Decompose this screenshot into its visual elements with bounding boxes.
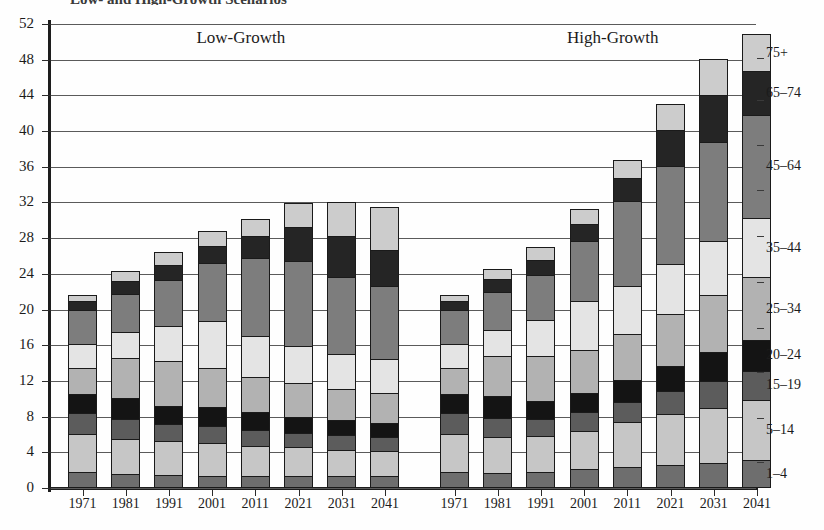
legend-tick-mark (757, 100, 764, 101)
bar-segment (327, 354, 356, 389)
bar[interactable] (370, 207, 399, 488)
bar-segment (198, 368, 227, 406)
bar-segment (370, 451, 399, 477)
bar-segment (68, 394, 97, 413)
bar-segment (154, 406, 183, 424)
bar-segment (483, 330, 512, 356)
bar-segment (370, 250, 399, 287)
bar-segment (370, 423, 399, 437)
y-tick-label: 16 (4, 337, 34, 352)
bar-segment (656, 104, 685, 130)
y-tick-mark (42, 381, 51, 382)
bar-segment (699, 352, 728, 381)
y-tick-mark (42, 95, 51, 96)
bar[interactable] (241, 219, 270, 488)
bar-segment (613, 160, 642, 179)
bar-segment (570, 301, 599, 350)
bar[interactable] (570, 209, 599, 488)
bar-segment (241, 430, 270, 446)
bar-segment (241, 377, 270, 413)
bar[interactable] (699, 59, 728, 488)
y-tick-mark (42, 345, 51, 346)
y-tick-label: 20 (4, 302, 34, 317)
legend-label-35-44: 35–44 (766, 241, 801, 255)
y-tick-mark (42, 452, 51, 453)
x-tick-label: 1971 (434, 496, 476, 512)
bar-segment (111, 474, 140, 488)
bar[interactable] (440, 295, 469, 488)
bar-segment (570, 469, 599, 488)
gridline (50, 131, 756, 132)
bar-segment (370, 286, 399, 358)
bar-segment (327, 202, 356, 236)
bar-segment (370, 476, 399, 488)
bar-segment (483, 356, 512, 396)
bar[interactable] (327, 202, 356, 488)
legend-label-15-19: 15–19 (766, 378, 801, 392)
bar-segment (370, 359, 399, 393)
bar-segment (613, 178, 642, 200)
bar-segment (483, 418, 512, 438)
legend-label-25-34: 25–34 (766, 302, 801, 316)
group-caption-high-growth: High-Growth (533, 28, 693, 48)
gridline (50, 24, 756, 25)
bar[interactable] (111, 271, 140, 488)
bar[interactable] (526, 247, 555, 488)
bar-segment (526, 275, 555, 321)
bar-segment (241, 412, 270, 430)
y-tick-label: 36 (4, 159, 34, 174)
bar[interactable] (154, 252, 183, 488)
bar-segment (68, 344, 97, 367)
x-tick-label: 1991 (520, 496, 562, 512)
x-tick-label: 2031 (693, 496, 735, 512)
bar-segment (613, 422, 642, 467)
y-tick-label: 8 (4, 409, 34, 424)
y-tick-label: 4 (4, 444, 34, 459)
bar-segment (526, 472, 555, 488)
bar-segment (154, 361, 183, 406)
bar[interactable] (656, 104, 685, 488)
bar-segment (699, 241, 728, 295)
group-caption-low-growth: Low-Growth (161, 28, 321, 48)
bar-segment (284, 346, 313, 383)
bar-segment (483, 279, 512, 291)
bar[interactable] (198, 231, 227, 488)
legend-label-75+: 75+ (766, 46, 788, 60)
bar-segment (526, 247, 555, 259)
legend-tick-mark (757, 462, 764, 463)
bar-segment (370, 437, 399, 450)
bar-segment (440, 344, 469, 367)
bar-segment (526, 436, 555, 472)
x-tick-label: 2001 (563, 496, 605, 512)
bar-segment (111, 358, 140, 398)
bar-segment (198, 231, 227, 246)
bar-segment (483, 437, 512, 473)
y-tick-mark (42, 274, 51, 275)
bar-segment (440, 310, 469, 345)
bar[interactable] (483, 269, 512, 488)
y-tick-label: 32 (4, 194, 34, 209)
legend-tick-mark (757, 282, 764, 283)
bar[interactable] (68, 295, 97, 488)
bar-segment (154, 252, 183, 264)
bar[interactable] (613, 160, 642, 488)
bar-segment (284, 261, 313, 347)
bar-segment (154, 265, 183, 280)
bar-segment (241, 219, 270, 237)
chart-title: Low- and High-Growth Scenarios (70, 0, 490, 5)
bar-segment (198, 476, 227, 488)
bar[interactable] (742, 34, 771, 488)
x-tick-label: 1981 (477, 496, 519, 512)
bar-segment (284, 417, 313, 433)
bar-segment (241, 446, 270, 475)
legend-label-20-24: 20–24 (766, 348, 801, 362)
bar-segment (154, 475, 183, 488)
bar[interactable] (284, 203, 313, 488)
legend-tick-mark (757, 418, 764, 419)
bar-segment (111, 398, 140, 419)
bar-segment (284, 476, 313, 488)
bar-segment (198, 246, 227, 263)
legend-tick-mark (757, 145, 764, 146)
bar-segment (327, 236, 356, 278)
legend-tick-mark (757, 372, 764, 373)
